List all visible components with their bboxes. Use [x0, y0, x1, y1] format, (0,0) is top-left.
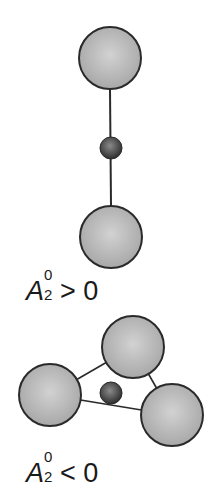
triangular-arrangement	[19, 316, 203, 446]
top-large-ion	[102, 316, 164, 378]
diagram-canvas	[0, 0, 222, 500]
right-large-ion	[141, 384, 203, 446]
top-large-ion	[79, 27, 141, 89]
central-small-ion	[100, 382, 122, 404]
label-subscript: 2	[44, 287, 52, 302]
bottom-large-ion	[80, 206, 142, 268]
label-superscript: 0	[44, 449, 52, 464]
label-relation: > 0	[60, 276, 98, 306]
label-indices: 02	[44, 455, 56, 482]
label-relation: < 0	[60, 458, 98, 488]
label-superscript: 0	[44, 267, 52, 282]
linear-arrangement	[79, 27, 142, 268]
label-subscript: 2	[44, 469, 52, 484]
label-positive: A02> 0	[26, 273, 98, 305]
label-indices: 02	[44, 273, 56, 300]
central-small-ion	[100, 137, 122, 159]
label-negative: A02< 0	[26, 455, 98, 487]
left-large-ion	[19, 364, 81, 426]
label-symbol: A	[26, 458, 44, 488]
label-symbol: A	[26, 276, 44, 306]
